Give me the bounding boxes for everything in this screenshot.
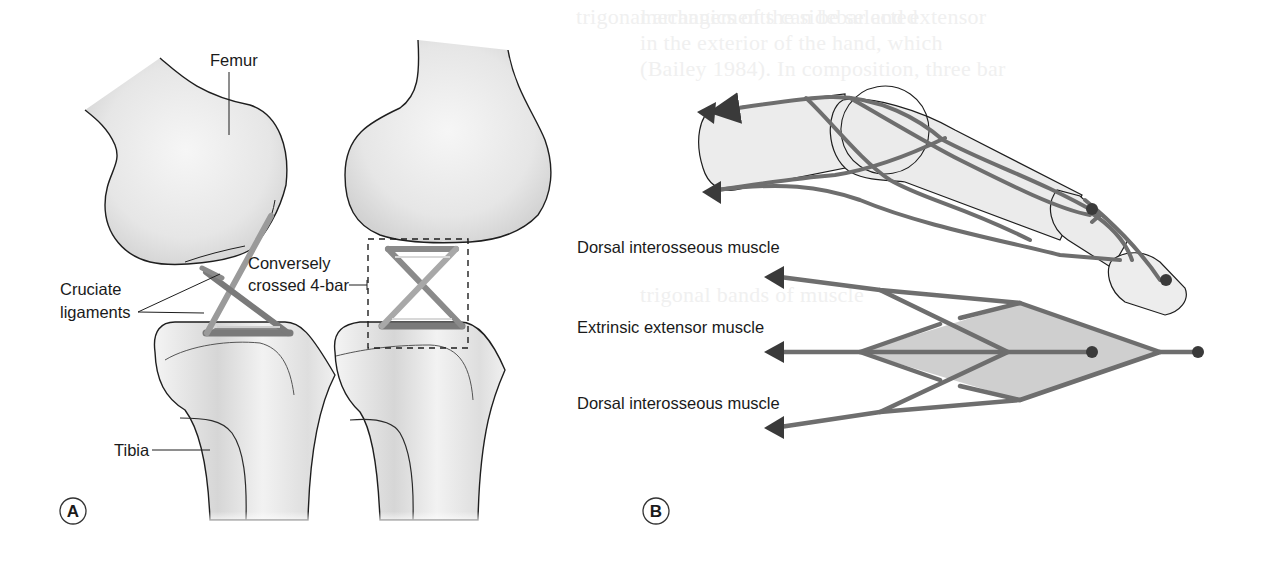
crossed-four-bar: [382, 249, 462, 326]
label-dorsal-interosseous-top: Dorsal interosseous muscle: [577, 238, 780, 256]
network-node-dot-end: [1192, 346, 1204, 358]
panel-b: Dorsal interosseous muscle Extrinsic ext…: [577, 79, 1204, 524]
femur-label: Femur: [210, 51, 258, 69]
arrowhead-dorsal-top: [764, 266, 784, 289]
figure-canvas: Femur Cruciate ligaments Tibia: [0, 0, 1266, 573]
femur-right-bone: [345, 40, 551, 243]
arrowhead-dorsal-bottom: [764, 416, 784, 439]
label-extrinsic-extensor: Extrinsic extensor muscle: [577, 318, 764, 336]
fourbar-label-line1: Conversely: [248, 254, 331, 272]
network-node-dot-middle: [1086, 346, 1098, 358]
tibia-right-bone: [320, 322, 520, 525]
panel-letter-b: B: [650, 502, 662, 521]
insertion-dot-distal: [1160, 274, 1172, 286]
femur-left-bone: [85, 58, 287, 264]
arrowhead-extrinsic: [764, 341, 784, 363]
panel-letter-a: A: [67, 502, 79, 521]
panel-label-b: B: [643, 498, 669, 524]
insertion-dot-middle: [1086, 203, 1098, 215]
panel-a: Femur Cruciate ligaments Tibia: [60, 40, 551, 525]
fourbar-label-line2: crossed 4-bar: [248, 276, 349, 294]
tibia-left-bone: [140, 322, 350, 525]
tibia-label: Tibia: [114, 441, 150, 459]
tendon-arrowhead-bottom: [702, 181, 721, 204]
cruciate-label-line2: ligaments: [60, 303, 131, 321]
label-dorsal-interosseous-bottom: Dorsal interosseous muscle: [577, 394, 780, 412]
panel-label-a: A: [60, 498, 86, 524]
cruciate-label-line1: Cruciate: [60, 280, 121, 298]
cruciate-leader-line-1: [138, 274, 220, 312]
cruciate-leader-line-2: [138, 312, 204, 313]
